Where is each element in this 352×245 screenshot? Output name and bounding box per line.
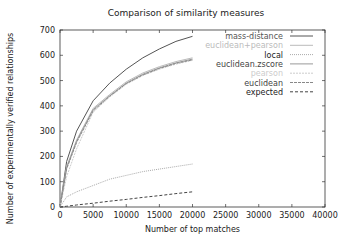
x-tick-label: 20000 bbox=[180, 211, 205, 220]
plot-frame bbox=[60, 30, 325, 207]
legend-label: expected bbox=[246, 88, 283, 97]
legend-label: local bbox=[264, 51, 283, 60]
series-line-local bbox=[60, 164, 193, 207]
x-tick-label: 35000 bbox=[279, 211, 304, 220]
y-tick-label: 400 bbox=[40, 102, 55, 111]
x-tick-label: 25000 bbox=[213, 211, 238, 220]
legend-label: euclidean+pearson bbox=[205, 41, 283, 50]
y-tick-label: 700 bbox=[40, 26, 55, 35]
y-tick-label: 100 bbox=[40, 178, 55, 187]
y-tick-label: 200 bbox=[40, 152, 55, 161]
series-line-euclidean+pearson bbox=[60, 58, 193, 207]
y-axis-label: Number of experimentally verified relati… bbox=[6, 33, 15, 224]
y-tick-label: 300 bbox=[40, 127, 55, 136]
x-tick-label: 0 bbox=[57, 211, 62, 220]
legend-label: euclidean bbox=[244, 79, 283, 88]
y-tick-label: 600 bbox=[40, 51, 55, 60]
x-tick-label: 15000 bbox=[147, 211, 172, 220]
x-axis-label: Number of top matches bbox=[145, 225, 240, 234]
x-tick-label: 10000 bbox=[114, 211, 139, 220]
series-line-mass-distance bbox=[60, 36, 193, 207]
y-tick-label: 0 bbox=[50, 203, 55, 212]
legend-label: euclidean.zscore bbox=[216, 60, 283, 69]
y-tick-label: 500 bbox=[40, 77, 55, 86]
x-tick-label: 5000 bbox=[83, 211, 103, 220]
x-tick-label: 40000 bbox=[312, 211, 337, 220]
legend-label: pearson bbox=[251, 69, 283, 78]
legend-label: mass-distance bbox=[225, 32, 283, 41]
x-tick-label: 30000 bbox=[246, 211, 271, 220]
line-chart: 0500010000150002000025000300003500040000… bbox=[0, 0, 352, 245]
